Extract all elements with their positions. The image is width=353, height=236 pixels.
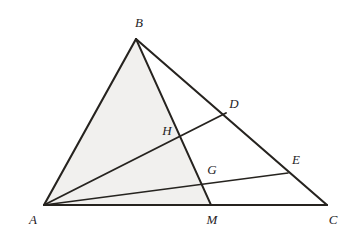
vertex-label-m: M — [206, 212, 219, 227]
vertex-label-e: E — [291, 152, 300, 167]
vertex-label-c: C — [329, 212, 338, 227]
vertex-label-h: H — [161, 123, 172, 138]
geometry-figure: A B C D E H G M — [0, 0, 353, 236]
vertex-label-g: G — [207, 162, 217, 177]
geometry-canvas: A B C D E H G M — [0, 0, 353, 236]
vertex-label-b: B — [135, 15, 143, 30]
vertex-label-a: A — [28, 212, 37, 227]
vertex-label-d: D — [228, 96, 239, 111]
